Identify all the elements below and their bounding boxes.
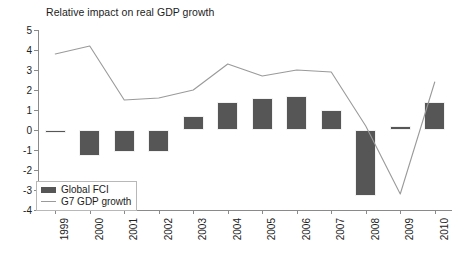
bar-swatch-icon: [41, 187, 56, 193]
y-tick-label: 1: [8, 105, 32, 116]
y-tick-label: -4: [8, 205, 32, 216]
x-tick-mark: [193, 210, 194, 214]
y-tick-label: 2: [8, 85, 32, 96]
legend-item-g7-gdp-growth: G7 GDP growth: [41, 196, 131, 207]
x-tick-mark: [366, 210, 367, 214]
line-swatch-icon: [41, 201, 56, 202]
x-tick-label-2003: 2003: [197, 218, 208, 240]
x-tick-label-2009: 2009: [404, 218, 415, 240]
y-tick-label: 4: [8, 45, 32, 56]
chart-title: Relative impact on real GDP growth: [46, 6, 214, 18]
x-tick-label-2010: 2010: [439, 218, 450, 240]
legend-label-global-fci: Global FCI: [61, 184, 109, 195]
g7-gdp-growth-line: [55, 46, 435, 194]
x-tick-mark: [228, 210, 229, 214]
x-tick-label-2005: 2005: [266, 218, 277, 240]
x-tick-label-2000: 2000: [94, 218, 105, 240]
x-tick-mark: [262, 210, 263, 214]
x-tick-label-2007: 2007: [335, 218, 346, 240]
x-tick-mark: [159, 210, 160, 214]
x-tick-label-2001: 2001: [128, 218, 139, 240]
x-tick-label-2004: 2004: [232, 218, 243, 240]
y-tick-label: 3: [8, 65, 32, 76]
x-tick-label-2006: 2006: [301, 218, 312, 240]
chart-container: Relative impact on real GDP growth 54321…: [0, 0, 460, 256]
y-tick-label: 0: [8, 125, 32, 136]
x-tick-mark: [435, 210, 436, 214]
x-tick-mark: [297, 210, 298, 214]
legend-label-g7-gdp-growth: G7 GDP growth: [61, 196, 131, 207]
y-tick-label: 5: [8, 25, 32, 36]
chart-legend: Global FCI G7 GDP growth: [36, 181, 137, 211]
x-tick-mark: [331, 210, 332, 214]
x-tick-mark: [400, 210, 401, 214]
x-tick-label-1999: 1999: [59, 218, 70, 240]
x-tick-label-2008: 2008: [370, 218, 381, 240]
x-tick-label-2002: 2002: [163, 218, 174, 240]
y-tick-label: -3: [8, 185, 32, 196]
legend-item-global-fci: Global FCI: [41, 184, 131, 195]
y-tick-label: -1: [8, 145, 32, 156]
y-tick-label: -2: [8, 165, 32, 176]
